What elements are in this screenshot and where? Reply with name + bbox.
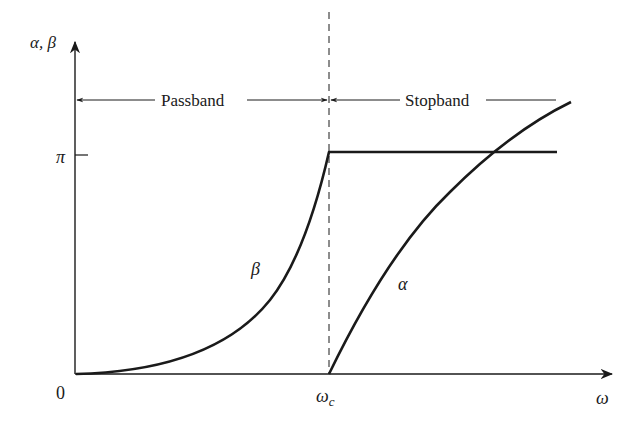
cutoff-label-omega: ω <box>316 386 329 406</box>
alpha-curve <box>329 102 571 374</box>
pi-tick-label: π <box>56 147 66 167</box>
passband-label: Passband <box>161 91 225 110</box>
alpha-curve-label: α <box>398 274 408 294</box>
origin-label: 0 <box>56 383 65 403</box>
stopband-label: Stopband <box>405 91 470 110</box>
beta-curve-label: β <box>250 259 260 279</box>
beta-curve <box>76 152 557 374</box>
phase-attenuation-diagram: α, β ω 0 π ωc Passband Stopband β α <box>0 0 642 423</box>
cutoff-label-subscript: c <box>329 394 335 409</box>
y-axis-label: α, β <box>30 33 56 52</box>
diagram-canvas: α, β ω 0 π ωc Passband Stopband β α <box>0 0 642 423</box>
cutoff-label: ωc <box>316 386 335 409</box>
x-axis-label: ω <box>596 388 609 408</box>
